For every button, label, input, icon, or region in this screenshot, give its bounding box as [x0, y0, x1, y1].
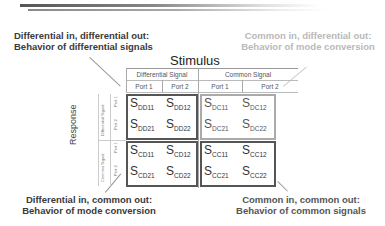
row-port: Port 2 — [113, 119, 118, 130]
s-param-cc22: SCC22 — [242, 164, 267, 179]
row-group-differential: Differential Signal — [100, 105, 105, 136]
column-port: Port 1 — [126, 83, 162, 90]
arrow-icon — [105, 174, 121, 193]
s-param-dc12: SDC12 — [242, 96, 267, 111]
header-divider — [126, 92, 298, 93]
row-port: Port 2 — [113, 165, 118, 176]
arrow-icon — [89, 57, 120, 86]
arrow-icon — [277, 181, 288, 192]
s-param-cc11: SCC11 — [204, 143, 228, 158]
column-port: Port 1 — [198, 83, 242, 90]
callout-line: Common in, common out: — [234, 194, 368, 205]
callout-line: Behavior of common signals — [234, 205, 368, 216]
callout-diff-common: Differential in, common out: Behavior of… — [22, 194, 156, 216]
callout-diff-diff: Differential in, differential out: Behav… — [14, 30, 148, 52]
s-param-cd21: SCD21 — [130, 164, 155, 179]
callout-line: Differential in, common out: — [22, 194, 156, 205]
s-param-cd22: SCD22 — [166, 164, 191, 179]
s-param-cc21: SCC21 — [204, 164, 229, 179]
s-param-cd11: SCD11 — [130, 143, 154, 158]
title-rule-top — [20, 4, 320, 7]
column-group-differential: Differential Signal — [126, 71, 198, 78]
column-group-common: Common Signal — [198, 71, 298, 78]
s-param-dd22: SDD22 — [166, 117, 191, 132]
callout-line: Differential in, differential out: — [14, 30, 148, 41]
row-divider — [98, 140, 126, 141]
header-divider — [126, 68, 298, 69]
s-param-dd12: SDD12 — [166, 96, 191, 111]
row-port: Port 1 — [113, 142, 118, 153]
s-param-dc11: SDC11 — [204, 96, 228, 111]
column-port: Port 2 — [162, 83, 198, 90]
row-port: Port 1 — [113, 96, 118, 107]
s-param-dc22: SDC22 — [242, 117, 267, 132]
callout-line: Behavior of mode conversion — [240, 41, 376, 52]
s-param-cc12: SCC12 — [242, 143, 267, 158]
stimulus-label: Stimulus — [170, 53, 220, 68]
s-param-cd12: SCD12 — [166, 143, 191, 158]
column-port: Port 2 — [242, 83, 298, 90]
header-divider — [126, 80, 298, 81]
callout-common-common: Common in, common out: Behavior of commo… — [234, 194, 368, 216]
s-param-dd11: SDD11 — [130, 96, 154, 111]
s-param-dc21: SDC21 — [204, 117, 229, 132]
callout-line: Behavior of mode conversion — [22, 205, 156, 216]
callout-line: Behavior of differential signals — [14, 41, 148, 52]
s-param-dd21: SDD21 — [130, 117, 155, 132]
title-rule-bottom — [28, 9, 328, 11]
callout-line: Common in, differential out: — [240, 30, 376, 41]
callout-common-diff: Common in, differential out: Behavior of… — [240, 30, 376, 52]
row-group-common: Common Signal — [100, 154, 105, 182]
response-label: Response — [68, 104, 78, 145]
